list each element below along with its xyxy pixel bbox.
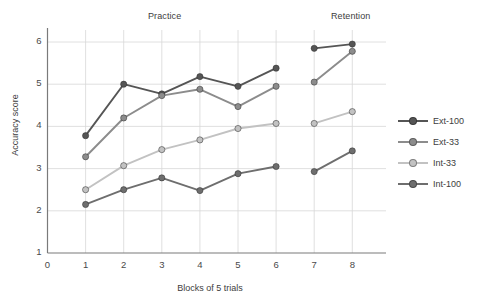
legend-marker-dot	[409, 138, 417, 146]
x-axis-tick: 4	[191, 259, 209, 270]
data-point	[121, 163, 127, 169]
data-point	[235, 125, 241, 131]
data-point	[273, 83, 279, 89]
data-point	[311, 79, 317, 85]
y-axis-tick: 2	[24, 204, 42, 215]
x-axis-tick: 7	[305, 259, 323, 270]
x-axis-tick: 3	[153, 259, 171, 270]
data-point	[349, 148, 355, 154]
data-point	[273, 163, 279, 169]
data-point	[197, 137, 203, 143]
x-axis-tick: 8	[343, 259, 361, 270]
data-point	[235, 171, 241, 177]
data-point	[121, 187, 127, 193]
x-axis-tick: 0	[39, 259, 57, 270]
data-point	[349, 41, 355, 47]
data-point	[197, 74, 203, 80]
series-line	[86, 123, 277, 189]
data-point	[159, 92, 165, 98]
data-point	[83, 201, 89, 207]
x-axis-tick: 6	[267, 259, 285, 270]
y-axis-tick: 5	[24, 77, 42, 88]
series-line	[314, 112, 352, 124]
x-axis-tick: 1	[77, 259, 95, 270]
legend-swatch	[398, 115, 428, 127]
legend-marker-dot	[409, 180, 417, 188]
data-point	[235, 103, 241, 109]
data-point	[121, 81, 127, 87]
legend-label: Ext-33	[433, 137, 459, 147]
data-point	[83, 154, 89, 160]
y-axis-tick: 3	[24, 162, 42, 173]
legend-swatch	[398, 136, 428, 148]
data-point	[311, 120, 317, 126]
data-point	[311, 45, 317, 51]
accuracy-score-line-chart: Practice Retention Accuracy score Blocks…	[0, 0, 486, 305]
legend-swatch	[398, 157, 428, 169]
legend-marker-dot	[409, 117, 417, 125]
data-point	[121, 115, 127, 121]
legend-label: Ext-100	[433, 116, 464, 126]
y-axis-tick: 6	[24, 35, 42, 46]
legend-item-int-33: Int-33	[398, 152, 486, 173]
legend-item-int-100: Int-100	[398, 173, 486, 194]
series-line	[314, 44, 352, 48]
legend-label: Int-100	[433, 179, 461, 189]
y-axis-tick: 4	[24, 119, 42, 130]
data-point	[311, 168, 317, 174]
data-point	[159, 147, 165, 153]
legend-marker-dot	[409, 159, 417, 167]
y-axis-tick: 1	[24, 246, 42, 257]
data-point	[197, 86, 203, 92]
data-point	[349, 109, 355, 115]
data-point	[83, 187, 89, 193]
legend-swatch	[398, 178, 428, 190]
series-line	[314, 51, 352, 82]
legend: Ext-100Ext-33Int-33Int-100	[398, 110, 486, 194]
x-axis-tick: 5	[229, 259, 247, 270]
data-point	[197, 187, 203, 193]
data-point	[235, 83, 241, 89]
x-axis-tick: 2	[115, 259, 133, 270]
legend-label: Int-33	[433, 158, 456, 168]
legend-item-ext-100: Ext-100	[398, 110, 486, 131]
data-point	[349, 48, 355, 54]
data-point	[273, 120, 279, 126]
data-point	[159, 175, 165, 181]
data-point	[83, 133, 89, 139]
legend-item-ext-33: Ext-33	[398, 131, 486, 152]
data-point	[273, 65, 279, 71]
